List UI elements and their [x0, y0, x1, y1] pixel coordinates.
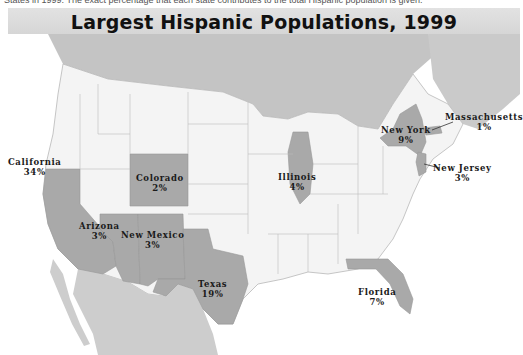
title-bar: Largest Hispanic Populations, 1999	[8, 8, 520, 34]
label-new-mexico: New Mexico3%	[121, 230, 184, 250]
label-florida: Florida7%	[358, 287, 396, 307]
label-colorado: Colorado2%	[136, 173, 184, 193]
state-new-mexico	[138, 214, 185, 286]
label-california: California34%	[8, 157, 61, 177]
label-new-york: New York9%	[381, 125, 431, 145]
label-arizona: Arizona3%	[79, 221, 120, 241]
label-illinois: Illinois4%	[278, 172, 316, 192]
map-title: Largest Hispanic Populations, 1999	[8, 11, 520, 33]
caption-fragment: States in 1999. The exact percentage tha…	[0, 0, 520, 8]
label-massachusetts: Massachusetts1%	[445, 112, 523, 132]
us-map: California34% Colorado2% Arizona3% New M…	[8, 34, 520, 355]
label-new-jersey: New Jersey3%	[433, 163, 492, 183]
label-texas: Texas19%	[198, 279, 227, 299]
caption-text: States in 1999. The exact percentage tha…	[4, 0, 423, 5]
